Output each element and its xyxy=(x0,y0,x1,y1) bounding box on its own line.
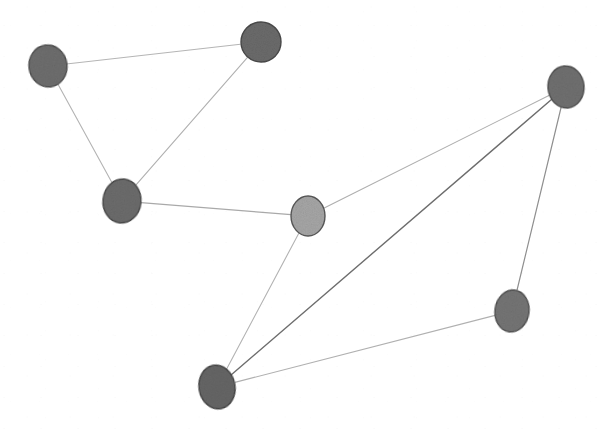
graph-node-shape[interactable] xyxy=(195,362,238,412)
graph-edge xyxy=(141,203,291,215)
graph-node[interactable] xyxy=(546,65,586,110)
graph-node-shape[interactable] xyxy=(241,22,281,62)
graph-edge xyxy=(323,95,550,208)
graph-node-shape[interactable] xyxy=(291,196,325,236)
graph-edge xyxy=(235,315,495,382)
graph-canvas-svg xyxy=(0,0,607,432)
graph-edge xyxy=(516,105,562,294)
graph-node[interactable] xyxy=(492,288,532,334)
graph-node-shape[interactable] xyxy=(492,288,532,334)
graph-node[interactable] xyxy=(26,43,69,90)
graph-node-shape[interactable] xyxy=(546,65,586,110)
graph-edge xyxy=(57,82,113,184)
graph-edge xyxy=(66,44,242,64)
node-layer xyxy=(26,22,585,412)
graph-edge xyxy=(231,99,552,375)
graph-node[interactable] xyxy=(195,362,238,412)
graph-node[interactable] xyxy=(291,196,325,236)
graph-edge xyxy=(226,231,300,371)
graph-node[interactable] xyxy=(241,22,281,62)
graph-node-shape[interactable] xyxy=(26,43,69,90)
graph-edge xyxy=(135,56,249,187)
network-graph-figure xyxy=(0,0,607,432)
